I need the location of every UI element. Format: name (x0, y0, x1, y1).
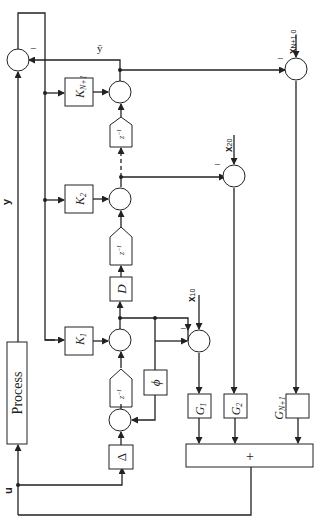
block-diagram: Process u y − ȳ KN+1 K2 (0, 0, 328, 517)
svg-text:−: − (277, 52, 283, 64)
svg-text:−: − (180, 322, 186, 334)
ybar-signal: ȳ (29, 42, 120, 70)
error-junction-1: − x10 (180, 289, 210, 352)
svg-text:x20: x20 (223, 139, 234, 152)
ybar-label: ȳ (97, 42, 103, 54)
error-junction-2: − x20 (214, 135, 245, 187)
svg-text:D: D (114, 284, 129, 295)
D-block: D (110, 277, 132, 301)
svg-text:−: − (214, 158, 220, 170)
output-sum-junction: − (7, 13, 55, 340)
gain-K2: K2 (65, 185, 93, 213)
gain-G1: G1 (188, 394, 211, 418)
gain-G2: G2 (224, 394, 247, 418)
svg-text:ϕ: ϕ (148, 379, 163, 386)
y-label: y (0, 198, 12, 205)
svg-text:x10: x10 (186, 289, 197, 302)
gain-KN1: KN+1 (65, 75, 93, 106)
delay-block-2: z−1 (110, 227, 132, 265)
gain-GN1: GN+1 (272, 394, 309, 420)
delay-block-1: z−1 (110, 369, 132, 407)
delay-block-3: z−1 (110, 117, 132, 147)
svg-text:+: + (246, 449, 254, 464)
sum-junction-1 (109, 329, 131, 351)
gain-K1: K1 (65, 327, 93, 355)
sum-junction-2 (109, 188, 131, 210)
svg-text:GN+1: GN+1 (272, 396, 287, 419)
delta-block: Δ (109, 445, 133, 469)
sum-junction-0 (109, 409, 131, 431)
output-sum-box: + (186, 444, 313, 467)
svg-text:xN+1,0: xN+1,0 (287, 29, 298, 54)
svg-text:Δ: Δ (114, 453, 129, 461)
svg-text:−: − (30, 42, 36, 54)
process-block: Process (7, 342, 27, 444)
u-label: u (2, 487, 14, 494)
sum-junction-N1 (109, 81, 131, 103)
error-junction-N1: ȳ − xN+1,0 (277, 29, 307, 80)
process-label: Process (10, 372, 25, 415)
y-signal: y (0, 72, 18, 342)
phi-block: ϕ (144, 370, 167, 395)
